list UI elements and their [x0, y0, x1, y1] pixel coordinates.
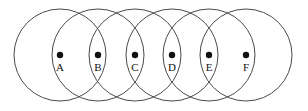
center-dot-a	[57, 52, 63, 58]
venn-diagram-canvas: A B C D E F	[0, 0, 308, 111]
point-label-c: C	[131, 61, 138, 73]
center-dot-c	[132, 52, 138, 58]
center-dot-d	[169, 52, 175, 58]
center-dot-e	[206, 52, 212, 58]
center-dot-f	[243, 52, 249, 58]
center-dot-b	[95, 52, 101, 58]
venn-diagram-figure: A B C D E F	[0, 0, 308, 111]
point-label-b: B	[94, 61, 101, 73]
figure-background	[0, 0, 308, 111]
point-label-e: E	[206, 61, 213, 73]
point-label-d: D	[168, 61, 176, 73]
point-label-f: F	[243, 61, 249, 73]
point-label-a: A	[56, 61, 64, 73]
